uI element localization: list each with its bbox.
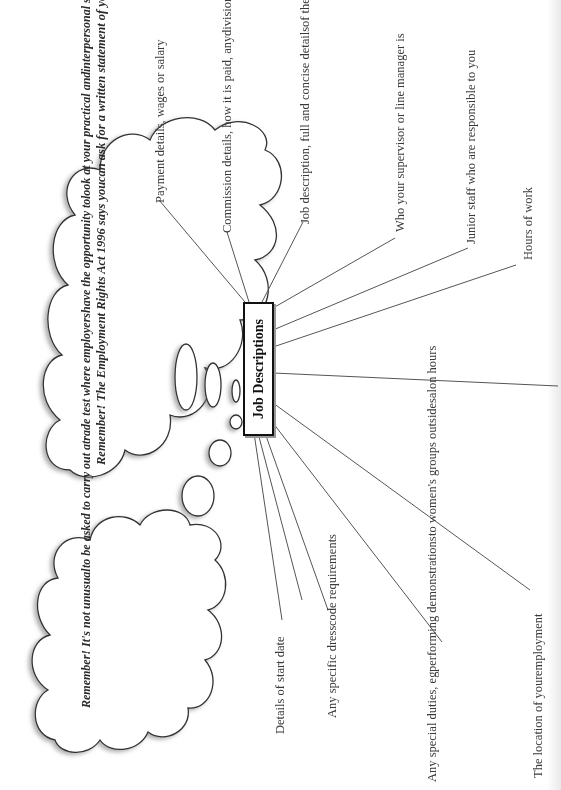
branch-location-line-1: The location of your (531, 676, 546, 778)
branch-commission: Commission details, how it is paid, any … (220, 8, 235, 233)
branch-location: The location of your employment (531, 658, 546, 778)
trade-test-line-6: interpersonal skills. A (79, 0, 93, 72)
branch-location-line-2: employment (531, 613, 546, 676)
trade-test-line-3: trade test where employers (79, 313, 93, 444)
branch-job-description-line-1: Job description, full and concise detail… (298, 27, 313, 224)
thought-bubbles (175, 344, 242, 516)
branch-special-duties: Any special duties, eg performing demons… (425, 602, 440, 782)
employment-rights-note: Remember! The Employment Rights Act 1996… (94, 185, 109, 465)
center-node-job-descriptions: Job Descriptions (243, 302, 274, 436)
branch-payment: Payment details, wages or salary (153, 33, 168, 203)
branch-supervisor: Who your supervisor or line manager is (393, 20, 408, 232)
branch-hours-line-1: Hours of work (521, 187, 536, 260)
branch-junior-staff-line-1: Junior staff who are responsible to you (464, 50, 479, 244)
branch-junior-staff: Junior staff who are responsible to you (464, 12, 479, 244)
branch-special-duties-line-4: salon hours (425, 345, 440, 402)
branch-dress-code-line-1: Any specific dress (325, 626, 340, 718)
branch-payment-line-1: Payment details, wages or salary (153, 40, 168, 204)
employment-rights-line-2: can ask for a written statement of your … (94, 0, 109, 182)
branch-start-date-line-1: Details of start date (273, 636, 288, 734)
branch-special-duties-line-2: performing demonstrations (425, 536, 440, 672)
trade-test-line-2: to be asked to carry out a (79, 444, 93, 568)
branch-special-duties-line-1: Any special duties, eg (425, 672, 440, 782)
trade-test-cloud-shape (32, 510, 226, 752)
branch-supervisor-line-1: Who your supervisor or line manager is (393, 33, 408, 232)
branch-dress-code: Any specific dress code requirements (325, 608, 340, 718)
branch-dress-code-line-2: code requirements (325, 534, 340, 626)
trade-test-line-1: Remember! It's not unusual (79, 568, 93, 708)
employment-rights-line-1: Remember! The Employment Rights Act 1996… (94, 182, 109, 465)
branch-commission-line-2: division between products and treatment (220, 0, 235, 36)
trade-test-line-5: look at your practical and (79, 72, 93, 199)
center-node-label: Job Descriptions (245, 304, 272, 434)
branch-start-date: Details of start date (273, 622, 288, 734)
branch-job-description: Job description, full and concise detail… (298, 8, 313, 224)
branch-commission-line-1: Commission details, how it is paid, any (220, 36, 235, 233)
branch-hours: Hours of work (521, 180, 536, 260)
trade-test-line-4: have the opportunity to (79, 199, 93, 313)
branch-job-description-line-2: of the duties, roles and responsibilitie… (298, 0, 313, 27)
trade-test-note: Remember! It's not unusual to be asked t… (79, 558, 93, 708)
branch-special-duties-line-3: to women's groups outside (425, 403, 440, 536)
